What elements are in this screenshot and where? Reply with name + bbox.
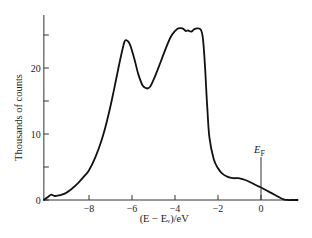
x-tick-label: −6 [127,203,138,214]
x-tick-label: −8 [84,203,95,214]
chart: 01020 −8−6−4−20 EF (E − Eᵥ)/eV Thousands… [0,0,312,238]
x-tick-label: 0 [259,203,264,214]
y-tick-label: 10 [31,129,41,140]
fermi-level-label: EF [253,144,265,158]
y-tick-label: 20 [31,63,41,74]
x-tick-label: −2 [213,203,224,214]
axes [44,15,298,200]
x-ticks: −8−6−4−20 [84,195,264,214]
y-axis-label: Thousands of counts [13,74,24,161]
series-line-spectrum [44,28,298,200]
fermi-level-label-subscript: F [260,149,265,158]
y-ticks: 01020 [31,35,49,206]
x-axis-label: (E − Eᵥ)/eV [140,213,190,225]
y-tick-label: 0 [36,195,41,206]
